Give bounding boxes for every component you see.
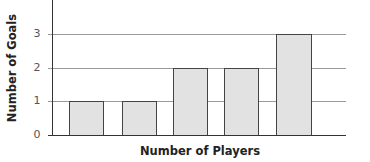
y-tick-label-2: 2	[31, 62, 43, 74]
bar-1	[69, 101, 104, 136]
x-axis-title: Number of Players	[140, 144, 260, 158]
bar-2	[122, 101, 157, 136]
bar-4	[224, 68, 259, 136]
y-tick-label-0: 0	[31, 129, 43, 141]
y-tick-label-3: 3	[31, 28, 43, 40]
bar-3	[173, 68, 208, 136]
y-axis-title: Number of Goals	[5, 14, 19, 122]
bar-5	[276, 34, 312, 136]
bar-chart: 3 2 1 0 Number of Goals Number of Player…	[0, 0, 370, 162]
y-tick-label-1: 1	[31, 95, 43, 107]
x-axis	[48, 135, 346, 136]
y-axis	[52, 0, 53, 136]
